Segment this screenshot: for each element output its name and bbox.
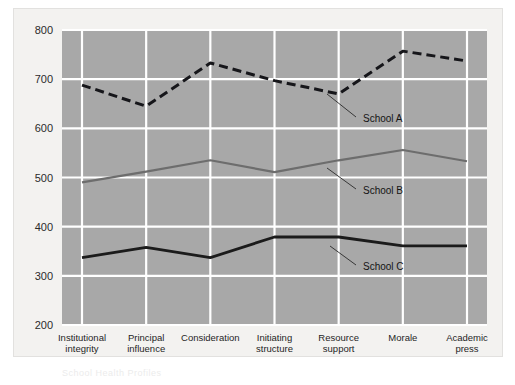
y-axis-tick-labels: 200300400500600700800 bbox=[35, 24, 53, 331]
figure-container: 200300400500600700800 School ASchool BSc… bbox=[0, 0, 515, 385]
x-category-label: Resource bbox=[318, 332, 359, 343]
x-category-label: Institutional bbox=[58, 332, 106, 343]
y-tick-label: 700 bbox=[35, 73, 53, 85]
y-tick-label: 800 bbox=[35, 24, 53, 36]
y-tick-label: 300 bbox=[35, 270, 53, 282]
x-category-label: support bbox=[323, 343, 355, 354]
series-label-school-b: School B bbox=[363, 185, 403, 196]
x-category-label: press bbox=[455, 343, 478, 354]
x-category-label: Consideration bbox=[181, 332, 240, 343]
x-axis-category-labels: InstitutionalintegrityPrincipalinfluence… bbox=[58, 332, 488, 354]
x-category-label: integrity bbox=[65, 343, 99, 354]
series-label-school-a: School A bbox=[363, 113, 403, 124]
y-tick-label: 500 bbox=[35, 172, 53, 184]
line-chart: 200300400500600700800 School ASchool BSc… bbox=[0, 0, 515, 385]
x-category-label: Academic bbox=[446, 332, 488, 343]
y-tick-label: 200 bbox=[35, 319, 53, 331]
x-category-label: structure bbox=[256, 343, 293, 354]
y-tick-label: 400 bbox=[35, 221, 53, 233]
x-category-label: Principal bbox=[128, 332, 164, 343]
x-category-label: Morale bbox=[388, 332, 417, 343]
y-tick-label: 600 bbox=[35, 122, 53, 134]
x-category-label: Initiating bbox=[257, 332, 292, 343]
caption-fragment: School Health Profiles bbox=[62, 368, 162, 376]
x-category-label: influence bbox=[127, 343, 165, 354]
series-label-school-c: School C bbox=[363, 261, 404, 272]
